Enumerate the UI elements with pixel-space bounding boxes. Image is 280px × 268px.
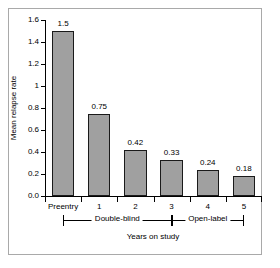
- y-tick-label: 1: [35, 82, 39, 90]
- x-tick-label: 3: [169, 203, 173, 211]
- bar-value-label: 0.75: [91, 103, 107, 111]
- y-tick: [41, 130, 45, 131]
- group-bracket: Open-label: [172, 215, 244, 225]
- x-tick: [190, 197, 191, 202]
- bar-value-label: 0.33: [164, 149, 180, 157]
- bracket-cap-left: [63, 215, 64, 226]
- y-tick-label: 1.4: [28, 38, 39, 46]
- y-tick: [41, 20, 45, 21]
- y-tick-label: 0.6: [28, 126, 39, 134]
- y-tick: [41, 64, 45, 65]
- y-axis-line: [45, 20, 46, 196]
- y-axis-title: Mean relapse rate: [10, 76, 18, 140]
- y-tick-label: 0.2: [28, 170, 39, 178]
- x-tick-label: 2: [133, 203, 137, 211]
- y-tick: [41, 174, 45, 175]
- y-tick-label: 1.6: [28, 16, 39, 24]
- y-tick: [41, 108, 45, 109]
- bar-value-label: 0.24: [200, 159, 216, 167]
- y-tick-label: 0.8: [28, 104, 39, 112]
- bracket-cap-right: [243, 215, 244, 226]
- x-tick: [261, 197, 262, 202]
- y-tick-label: 0.0: [28, 192, 39, 200]
- x-axis-title: Years on study: [127, 233, 180, 241]
- bar: [197, 170, 219, 196]
- x-tick-label: 5: [242, 203, 246, 211]
- bracket-label: Double-blind: [92, 214, 143, 224]
- bar: [233, 176, 255, 196]
- bar-value-label: 1.5: [58, 20, 69, 28]
- y-tick-label: 1.2: [28, 60, 39, 68]
- bar: [124, 150, 146, 196]
- bar-value-label: 0.42: [128, 139, 144, 147]
- bar: [52, 31, 74, 196]
- x-tick-label: Preentry: [48, 203, 78, 211]
- x-tick: [154, 197, 155, 202]
- x-tick-label: 1: [97, 203, 101, 211]
- x-tick: [81, 197, 82, 202]
- x-tick: [117, 197, 118, 202]
- group-bracket: Double-blind: [63, 215, 172, 225]
- bar-value-label: 0.18: [236, 165, 252, 173]
- plot-area: 0.00.20.40.60.811.21.41.6 1.50.750.420.3…: [45, 20, 262, 196]
- bar: [88, 114, 110, 197]
- x-tick: [226, 197, 227, 202]
- y-tick-label: 0.4: [28, 148, 39, 156]
- y-tick: [41, 86, 45, 87]
- x-tick: [45, 197, 46, 202]
- chart-figure: Mean relapse rate 0.00.20.40.60.811.21.4…: [0, 0, 280, 268]
- bar: [160, 160, 182, 196]
- bracket-cap-left: [172, 215, 173, 226]
- bracket-label: Open-label: [185, 214, 230, 224]
- y-tick: [41, 42, 45, 43]
- y-tick: [41, 152, 45, 153]
- x-tick-label: 4: [206, 203, 210, 211]
